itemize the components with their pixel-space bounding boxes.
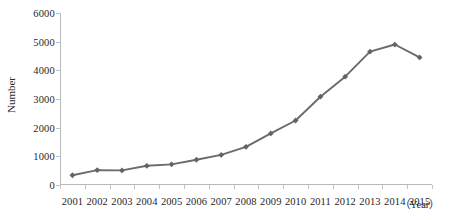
x-axis-tick-mark <box>283 185 284 189</box>
x-axis-tick-mark <box>407 185 408 189</box>
y-axis-tick-labels: 0100020003000400050006000 <box>22 0 58 192</box>
x-axis-tick-mark <box>184 185 185 189</box>
x-axis-tick-label: 2009 <box>260 196 281 207</box>
data-point-marker <box>169 161 175 167</box>
y-axis-tick-mark <box>56 99 60 100</box>
x-axis-tick-label: 2005 <box>161 196 182 207</box>
x-axis-tick-label: 2008 <box>235 196 256 207</box>
y-axis-tick-mark <box>56 13 60 14</box>
x-axis-tick-labels: 2001200220032004200520062007200820092010… <box>60 196 451 216</box>
x-axis-tick-label: 2001 <box>62 196 83 207</box>
x-axis-tick-mark <box>110 185 111 189</box>
x-axis-unit-label: （Year） <box>400 196 439 211</box>
x-axis-tick-mark <box>333 185 334 189</box>
data-point-marker <box>144 163 150 169</box>
y-axis-tick-mark <box>56 156 60 157</box>
y-axis-tick-label: 4000 <box>33 65 55 76</box>
x-axis-tick-mark <box>258 185 259 189</box>
x-axis-tick-mark <box>60 185 61 189</box>
x-axis-tick-mark <box>308 185 309 189</box>
y-axis-tick-label: 6000 <box>33 8 55 19</box>
series-line <box>72 45 419 176</box>
data-point-marker <box>218 152 224 158</box>
data-point-marker <box>70 172 76 178</box>
data-point-marker <box>119 167 125 173</box>
x-axis-tick-label: 2002 <box>86 196 107 207</box>
x-axis-tick-label: 2007 <box>210 196 231 207</box>
x-axis-tick-label: 2012 <box>334 196 355 207</box>
x-axis-tick-mark <box>358 185 359 189</box>
x-axis-tick-mark <box>85 185 86 189</box>
x-axis-tick-label: 2011 <box>310 196 331 207</box>
x-axis-tick-label: 2013 <box>359 196 380 207</box>
x-axis-tick-mark <box>234 185 235 189</box>
y-axis-tick-mark <box>56 128 60 129</box>
y-axis-tick-mark <box>56 70 60 71</box>
line-chart: Number 0100020003000400050006000 2001200… <box>0 0 451 220</box>
y-axis-tick-label: 3000 <box>33 94 55 105</box>
plot-area <box>60 13 432 185</box>
y-axis-title: Number <box>0 0 22 190</box>
x-axis-tick-mark <box>134 185 135 189</box>
data-point-marker <box>194 157 200 163</box>
y-axis-tick-label: 0 <box>50 180 55 191</box>
x-axis-tick-mark <box>159 185 160 189</box>
x-axis-tick-mark <box>209 185 210 189</box>
y-axis-tick-label: 2000 <box>33 122 55 133</box>
x-axis-tick-mark <box>432 185 433 189</box>
y-axis-tick-label: 5000 <box>33 36 55 47</box>
x-axis-tick-label: 2004 <box>136 196 157 207</box>
x-axis-tick-label: 2010 <box>285 196 306 207</box>
data-point-marker <box>94 167 100 173</box>
y-axis-tick-label: 1000 <box>33 151 55 162</box>
data-series-group <box>60 13 432 185</box>
y-axis-title-label: Number <box>5 77 17 113</box>
y-axis-tick-mark <box>56 42 60 43</box>
x-axis-tick-mark <box>382 185 383 189</box>
x-axis-tick-label: 2006 <box>186 196 207 207</box>
x-axis-tick-label: 2003 <box>111 196 132 207</box>
